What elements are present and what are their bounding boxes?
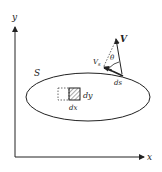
theta-label: θ (110, 54, 115, 62)
dy-label: dy (83, 91, 93, 100)
projection-line (104, 40, 116, 66)
hatched-element (69, 88, 80, 100)
dx-label: dx (69, 104, 77, 112)
y-axis-label: y (11, 12, 18, 22)
angle-arc (109, 62, 119, 68)
region-label: S (34, 68, 40, 78)
vector-label: V (120, 34, 128, 44)
ds-label: ds (114, 79, 122, 87)
x-axis-label: x (147, 152, 152, 162)
diagram-canvas: y x S dy dx ds V Vs θ (0, 0, 162, 172)
velocity-vector (116, 39, 122, 74)
vs-label: Vs (93, 58, 101, 67)
dotted-element (58, 88, 69, 100)
